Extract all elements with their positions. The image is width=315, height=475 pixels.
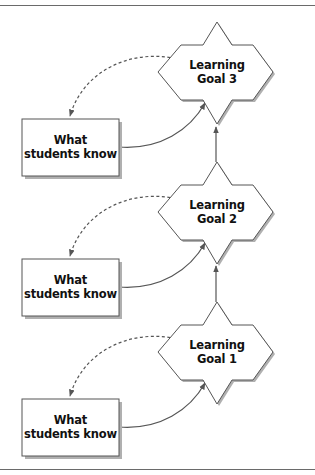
what-students-know-box-2-label: What students know — [22, 273, 119, 301]
box-label-line2: students know — [22, 287, 119, 301]
learning-goal-1-label: Learning Goal 1 — [181, 338, 253, 366]
goal-label-line2: Goal 2 — [181, 212, 253, 226]
solid-progress-arrow — [119, 103, 205, 147]
box-label-line1: What — [22, 413, 119, 427]
learning-goal-2-label: Learning Goal 2 — [181, 198, 253, 226]
what-students-know-box-1-label: What students know — [22, 133, 119, 161]
goal-label-line1: Learning — [181, 198, 253, 212]
solid-progress-arrow — [119, 243, 205, 287]
what-students-know-box-3-label: What students know — [22, 413, 119, 441]
learning-goal-3-label: Learning Goal 3 — [181, 58, 253, 86]
goal-label-line2: Goal 1 — [181, 352, 253, 366]
box-label-line1: What — [22, 273, 119, 287]
goal-label-line1: Learning — [181, 58, 253, 72]
learning-goals-diagram — [0, 0, 315, 475]
box-label-line1: What — [22, 133, 119, 147]
solid-progress-arrow — [119, 383, 205, 427]
goal-label-line2: Goal 3 — [181, 72, 253, 86]
goal-label-line1: Learning — [181, 338, 253, 352]
box-label-line2: students know — [22, 427, 119, 441]
box-label-line2: students know — [22, 147, 119, 161]
